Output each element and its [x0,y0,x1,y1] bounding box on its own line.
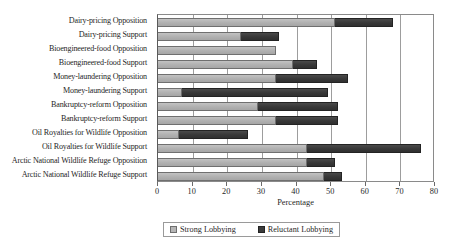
chart-legend: Strong Lobbying Reluctant Lobbying [163,222,340,237]
bar-row [158,32,435,41]
bar-segment-reluctant-lobbying [335,18,394,27]
category-label: Dairy-pricing Support [79,29,147,41]
plot-area [157,14,434,182]
bar-segment-reluctant-lobbying [293,60,317,69]
bar-row [158,158,435,167]
bar-segment-reluctant-lobbying [241,32,279,41]
reluctant-lobbying-swatch [258,226,265,233]
bar-segment-strong-lobbying [158,130,179,139]
bar-segment-strong-lobbying [158,158,307,167]
category-label: Arctic National Wildlife Refuge Oppositi… [12,155,147,167]
category-axis-labels: Dairy-pricing OppositionDairy-pricing Su… [0,14,152,182]
bar-segment-strong-lobbying [158,32,241,41]
strong-lobbying-swatch [170,226,177,233]
bar-segment-strong-lobbying [158,60,293,69]
bar-segment-strong-lobbying [158,18,335,27]
legend-item-strong-lobbying: Strong Lobbying [170,225,236,235]
bar-row [158,18,435,27]
x-tick-label: 0 [155,186,159,197]
bar-segment-reluctant-lobbying [324,172,341,181]
legend-label-strong-lobbying: Strong Lobbying [180,225,236,235]
category-label: Bioengineered-food Support [59,57,147,69]
bar-segment-strong-lobbying [158,172,324,181]
category-label: Dairy-pricing Opposition [69,15,147,27]
bar-series-group [158,15,433,181]
bar-row [158,60,435,69]
x-tick-label: 40 [291,186,299,197]
x-tick-label: 80 [430,186,438,197]
bar-segment-reluctant-lobbying [307,144,421,153]
category-label: Money-laundering Opposition [53,71,147,83]
bar-segment-strong-lobbying [158,46,276,55]
bar-row [158,116,435,125]
bar-segment-reluctant-lobbying [307,158,335,167]
bar-row [158,130,435,139]
category-label: Arctic National Wildlife Refuge Support [22,169,147,181]
bar-segment-reluctant-lobbying [276,74,349,83]
category-label: Oil Royalties for Wildlife Support [42,141,147,153]
x-tick-label: 70 [395,186,403,197]
category-label: Bioengineered-food Opposition [49,43,147,55]
x-tick-label: 30 [257,186,265,197]
bar-segment-reluctant-lobbying [276,116,338,125]
stacked-bar-chart: Dairy-pricing OppositionDairy-pricing Su… [0,0,451,248]
bar-segment-strong-lobbying [158,74,276,83]
x-tick-label: 50 [326,186,334,197]
bar-segment-reluctant-lobbying [258,102,338,111]
x-tick-label: 10 [187,186,195,197]
bar-row [158,88,435,97]
bar-row [158,102,435,111]
category-label: Oil Royalties for Wildlife Opposition [32,127,147,139]
bar-row [158,144,435,153]
category-label: Bankruptcy-reform Support [61,113,147,125]
legend-label-reluctant-lobbying: Reluctant Lobbying [268,225,333,235]
bar-segment-reluctant-lobbying [182,88,327,97]
bar-row [158,74,435,83]
category-label: Bankruptcy-reform Opposition [51,99,147,111]
bar-row [158,46,435,55]
legend-item-reluctant-lobbying: Reluctant Lobbying [258,225,333,235]
bar-row [158,172,435,181]
x-axis-tick-labels: 01020304050607080 [157,186,434,198]
bar-segment-strong-lobbying [158,88,182,97]
bar-segment-strong-lobbying [158,116,276,125]
bar-segment-strong-lobbying [158,102,258,111]
x-tick-label: 20 [222,186,230,197]
bar-segment-strong-lobbying [158,144,307,153]
bar-segment-reluctant-lobbying [179,130,248,139]
category-label: Money-laundering Support [63,85,147,97]
x-tick-label: 60 [361,186,369,197]
x-axis-title: Percentage [157,198,434,207]
